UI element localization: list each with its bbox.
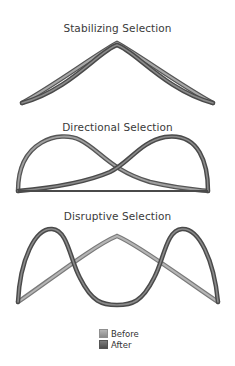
after-swatch-icon: [99, 340, 108, 349]
selection-curves-diagram: [0, 0, 235, 366]
disruptive-after-curve: [18, 229, 218, 305]
legend-item-before: Before: [99, 328, 139, 339]
legend: Before After: [99, 328, 139, 350]
stabilizing-after-curve: [22, 45, 213, 103]
stabilizing-curves: [22, 43, 213, 103]
before-swatch-icon: [99, 329, 108, 338]
directional-curves: [18, 136, 208, 191]
legend-item-after: After: [99, 339, 139, 350]
legend-label-after: After: [111, 340, 131, 350]
disruptive-curves: [18, 229, 218, 305]
legend-label-before: Before: [111, 329, 139, 339]
disruptive-before-curve: [18, 236, 218, 302]
